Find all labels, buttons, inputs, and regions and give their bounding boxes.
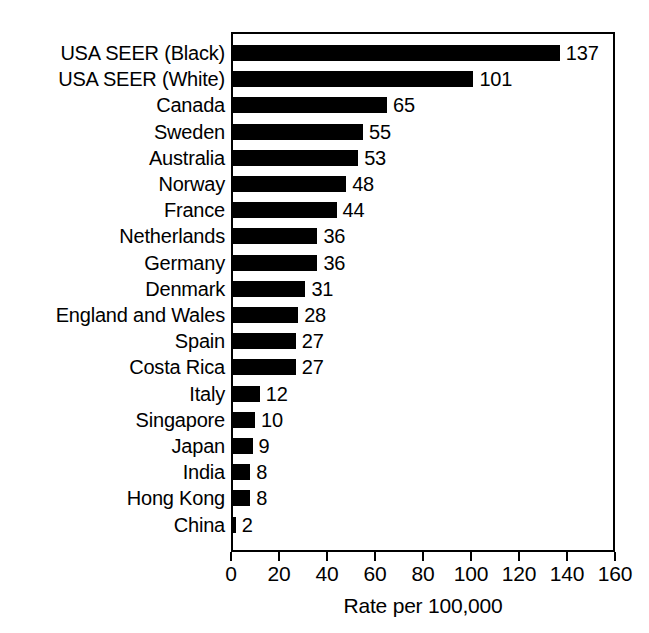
bar-value-label: 53 [364, 148, 386, 168]
bar-row: 44 [231, 197, 615, 223]
bar-row: 55 [231, 119, 615, 145]
category-label: Costa Rica [0, 354, 225, 380]
x-tick-mark [518, 552, 520, 561]
bar [231, 45, 560, 61]
bar-value-label: 137 [566, 43, 599, 63]
x-tick-mark [326, 552, 328, 561]
category-label: China [0, 512, 225, 538]
bar-row: 36 [231, 223, 615, 249]
bar-value-label: 65 [393, 95, 415, 115]
bar-value-label: 28 [304, 305, 326, 325]
bar-row: 28 [231, 302, 615, 328]
category-label: Italy [0, 381, 225, 407]
x-tick-label: 140 [550, 563, 584, 584]
bar [231, 255, 317, 271]
x-axis-ticks [231, 552, 615, 561]
bar-row: 101 [231, 66, 615, 92]
x-tick-mark [470, 552, 472, 561]
x-tick-label: 60 [364, 563, 387, 584]
bar-value-label: 48 [352, 174, 374, 194]
bar-row: 137 [231, 40, 615, 66]
x-tick-mark [374, 552, 376, 561]
bar-row: 36 [231, 250, 615, 276]
bar-value-label: 101 [479, 69, 512, 89]
bar-row: 12 [231, 381, 615, 407]
category-label: Netherlands [0, 223, 225, 249]
category-label: USA SEER (White) [0, 66, 225, 92]
category-axis-labels: USA SEER (Black)USA SEER (White)CanadaSw… [0, 32, 225, 552]
category-label: India [0, 459, 225, 485]
bar-row: 27 [231, 328, 615, 354]
x-tick-label: 100 [454, 563, 488, 584]
bar [231, 228, 317, 244]
category-label: Singapore [0, 407, 225, 433]
bars-layer: 137101655553484436363128272712109882 [231, 32, 615, 552]
category-label: USA SEER (Black) [0, 40, 225, 66]
bar [231, 386, 260, 402]
category-label: Germany [0, 250, 225, 276]
category-label: Denmark [0, 276, 225, 302]
x-tick-label: 160 [598, 563, 632, 584]
bar-row: 31 [231, 276, 615, 302]
bar-value-label: 44 [343, 200, 365, 220]
x-axis-tick-labels: 020406080100120140160 [231, 563, 615, 589]
x-tick-label: 20 [268, 563, 291, 584]
bar-value-label: 55 [369, 122, 391, 142]
category-label: Japan [0, 433, 225, 459]
x-tick-mark [566, 552, 568, 561]
bar-row: 8 [231, 459, 615, 485]
chart-page: USA SEER (Black)USA SEER (White)CanadaSw… [0, 0, 649, 633]
bar [231, 124, 363, 140]
category-label: England and Wales [0, 302, 225, 328]
bar-value-label: 27 [302, 331, 324, 351]
bar-value-label: 9 [259, 436, 270, 456]
bar-row: 10 [231, 407, 615, 433]
bar [231, 307, 298, 323]
bar [231, 517, 236, 533]
bar-value-label: 8 [256, 462, 267, 482]
bar-row: 65 [231, 92, 615, 118]
category-label: France [0, 197, 225, 223]
bar [231, 490, 250, 506]
category-label: Australia [0, 145, 225, 171]
category-label: Canada [0, 92, 225, 118]
bar [231, 176, 346, 192]
bar [231, 438, 253, 454]
bar-value-label: 31 [311, 279, 333, 299]
bar-row: 27 [231, 354, 615, 380]
bar-row: 9 [231, 433, 615, 459]
bar-value-label: 10 [261, 410, 283, 430]
x-tick-mark [278, 552, 280, 561]
category-label: Hong Kong [0, 485, 225, 511]
x-tick-label: 80 [412, 563, 435, 584]
x-tick-mark [614, 552, 616, 561]
bar-value-label: 12 [266, 384, 288, 404]
bar [231, 412, 255, 428]
x-tick-label: 40 [316, 563, 339, 584]
bar [231, 281, 305, 297]
bar-value-label: 36 [323, 253, 345, 273]
x-tick-mark [230, 552, 232, 561]
bar-row: 2 [231, 512, 615, 538]
bar [231, 359, 296, 375]
bar [231, 97, 387, 113]
bar-value-label: 8 [256, 488, 267, 508]
bar [231, 202, 337, 218]
bar [231, 464, 250, 480]
x-tick-label: 0 [225, 563, 236, 584]
x-tick-mark [422, 552, 424, 561]
category-label: Norway [0, 171, 225, 197]
bar-row: 8 [231, 485, 615, 511]
category-label: Spain [0, 328, 225, 354]
bar [231, 71, 473, 87]
bar-value-label: 36 [323, 226, 345, 246]
bar-value-label: 2 [242, 515, 253, 535]
bar-value-label: 27 [302, 357, 324, 377]
bar [231, 150, 358, 166]
bar [231, 333, 296, 349]
x-tick-label: 120 [502, 563, 536, 584]
bar-row: 48 [231, 171, 615, 197]
category-label: Sweden [0, 119, 225, 145]
bar-row: 53 [231, 145, 615, 171]
x-axis-title: Rate per 100,000 [231, 595, 615, 616]
